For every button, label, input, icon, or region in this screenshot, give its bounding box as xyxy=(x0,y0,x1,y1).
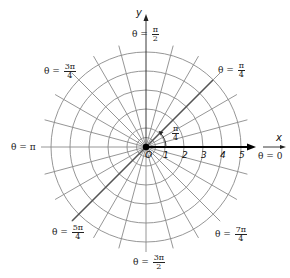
radius-tick-5: 5 xyxy=(239,151,245,160)
radial-line xyxy=(119,46,146,147)
radial-line xyxy=(146,147,247,174)
radial-line xyxy=(55,95,146,148)
radial-line xyxy=(146,147,199,238)
y-axis-arrowhead xyxy=(144,14,149,21)
origin-label: O xyxy=(145,151,152,160)
x-axis-label: x xyxy=(276,133,282,143)
radius-tick-4: 4 xyxy=(220,151,226,160)
label-theta-0: θ = 0 xyxy=(258,152,282,161)
label-theta-pi: θ = π xyxy=(11,143,36,152)
radius-tick-2: 2 xyxy=(182,151,188,160)
radius-tick-3: 3 xyxy=(201,151,207,160)
ray-5pi-over-4 xyxy=(72,147,146,221)
label-theta-3pi-over-2: θ = 3π2 xyxy=(133,254,165,271)
radial-line xyxy=(119,147,146,248)
angle-marker-label: π4 xyxy=(171,125,179,142)
label-theta-5pi-over-4: θ = 5π4 xyxy=(52,224,84,241)
radial-line xyxy=(146,147,173,248)
label-theta-7pi-over-4: θ = 7π4 xyxy=(215,226,247,243)
radial-line xyxy=(72,73,146,147)
y-axis-label: y xyxy=(136,8,142,18)
radial-line xyxy=(94,56,147,147)
label-theta-pi-over-2: θ = π2 xyxy=(132,26,159,43)
radial-line xyxy=(45,120,146,147)
radial-line xyxy=(45,147,146,174)
ray-pi-over-4 xyxy=(146,80,213,147)
x-axis-arrowhead xyxy=(280,145,286,149)
label-theta-pi-over-4: θ = π4 xyxy=(218,62,245,79)
polar-axis-arrowhead xyxy=(247,144,256,151)
radius-tick-1: 1 xyxy=(163,151,169,160)
label-theta-3pi-over-4: θ = 3π4 xyxy=(44,63,76,80)
